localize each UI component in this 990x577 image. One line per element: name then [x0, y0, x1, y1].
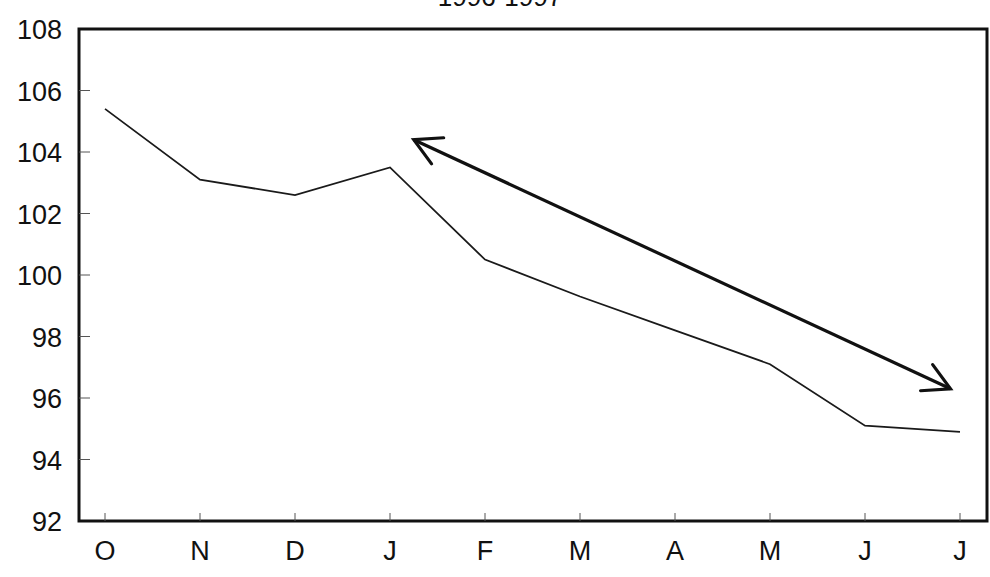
chart-title-group: 1996-1997	[438, 0, 562, 12]
series-line-0	[105, 109, 960, 432]
y-tick-label: 108	[17, 15, 62, 45]
plot-frame	[79, 29, 987, 521]
x-tick-label: D	[285, 536, 305, 566]
y-tick-label: 102	[17, 200, 62, 230]
chart-canvas: 1996-1997 92949698100102104106108 ONDJFM…	[0, 0, 990, 577]
plot-border	[79, 29, 987, 521]
x-tick-label: A	[666, 536, 684, 566]
trend-arrow-annotation	[414, 138, 951, 391]
data-series	[105, 109, 960, 432]
x-tick-label: M	[759, 536, 782, 566]
chart-title: 1996-1997	[438, 0, 562, 12]
x-tick-label: J	[383, 536, 397, 566]
arrow-shaft	[414, 140, 951, 389]
y-tick-label: 100	[17, 261, 62, 291]
x-tick-label: M	[569, 536, 592, 566]
y-tick-label: 106	[17, 77, 62, 107]
y-tick-label: 96	[32, 384, 62, 414]
y-tick-label: 92	[32, 507, 62, 537]
x-tick-label: F	[477, 536, 494, 566]
x-tick-label: J	[858, 536, 872, 566]
y-tick-label: 104	[17, 138, 62, 168]
x-tick-label: N	[190, 536, 210, 566]
y-tick-label: 94	[32, 446, 62, 476]
line-chart: 1996-1997 92949698100102104106108 ONDJFM…	[0, 0, 990, 577]
y-tick-label: 98	[32, 323, 62, 353]
x-tick-label: O	[94, 536, 115, 566]
x-tick-label: J	[953, 536, 967, 566]
